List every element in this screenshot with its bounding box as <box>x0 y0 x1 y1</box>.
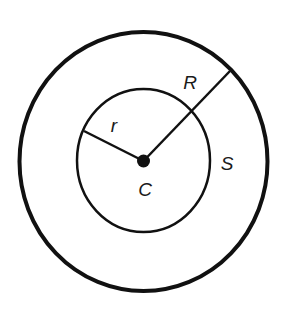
label-R: R <box>183 72 197 93</box>
concentric-circles-diagram: r R S C <box>0 0 287 315</box>
center-point-c <box>137 155 150 168</box>
label-S: S <box>221 153 234 174</box>
label-r: r <box>111 115 118 136</box>
label-C: C <box>138 179 152 200</box>
diagram-svg: r R S C <box>0 0 287 315</box>
